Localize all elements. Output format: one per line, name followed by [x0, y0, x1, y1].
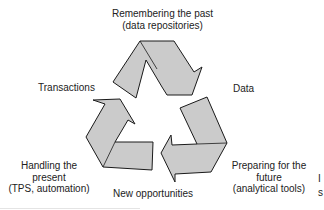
divider	[0, 208, 140, 209]
arrow-preparing-to-new	[161, 97, 227, 182]
label-remembering-the-past: Remembering the past (data repositories)	[105, 8, 220, 31]
label-data: Data	[233, 83, 254, 95]
label-line: (TPS, automation)	[6, 183, 92, 195]
label-line: present	[6, 172, 92, 184]
label-transactions: Transactions	[38, 82, 95, 94]
fragment-line: I	[318, 172, 323, 186]
label-new-opportunities: New opportunities	[113, 188, 193, 200]
label-line: (data repositories)	[105, 20, 220, 32]
arrow-remembering-to-preparing	[113, 41, 202, 98]
label-line: Handling the	[6, 160, 92, 172]
label-line: future	[227, 172, 311, 184]
label-preparing-for-the-future: Preparing for the future (analytical too…	[227, 160, 311, 195]
fragment-line: s	[318, 186, 323, 200]
label-line: (analytical tools)	[227, 183, 311, 195]
label-handling-the-present: Handling the present (TPS, automation)	[6, 160, 92, 195]
cropped-text-fragment: I s	[318, 172, 323, 200]
arrow-handling-to-remembering	[86, 99, 153, 170]
label-line: Remembering the past	[105, 8, 220, 20]
label-line: Preparing for the	[227, 160, 311, 172]
